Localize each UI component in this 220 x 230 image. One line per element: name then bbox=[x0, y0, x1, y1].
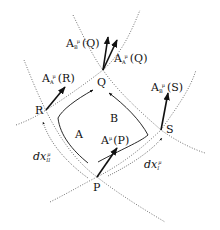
label-path-b: B bbox=[110, 112, 118, 125]
vector-a-r bbox=[46, 87, 65, 110]
vectors bbox=[46, 37, 168, 177]
label-vector-a-q-b: ABμ(Q) bbox=[65, 37, 100, 50]
transport-paths bbox=[58, 90, 148, 163]
label-p: P bbox=[93, 181, 101, 194]
parallel-transport-diagram: P Q R S A B Aμ(P) AAμ(R) ABμ(Q) AAμ(Q) A… bbox=[0, 0, 220, 230]
label-vector-a-r: AAμ(R) bbox=[41, 72, 75, 85]
label-vector-a-p: Aμ(P) bbox=[100, 134, 129, 147]
label-s: S bbox=[166, 123, 174, 136]
curve-right-qs bbox=[73, 15, 205, 153]
label-q: Q bbox=[97, 76, 106, 89]
label-dx1: dxIμ bbox=[144, 158, 161, 171]
label-path-a: A bbox=[74, 128, 84, 141]
label-vector-a-q-a: AAμ(Q) bbox=[113, 52, 147, 65]
path-a-left bbox=[58, 90, 93, 163]
path-b-right bbox=[98, 93, 148, 162]
label-dx2: dxIIμ bbox=[33, 150, 51, 163]
label-r: R bbox=[35, 104, 44, 117]
displacement-labels: dxIIμ dxIμ bbox=[33, 150, 161, 171]
vector-a-p bbox=[97, 148, 117, 177]
vector-labels: Aμ(P) AAμ(R) ABμ(Q) AAμ(Q) ABμ(S) bbox=[41, 37, 183, 147]
label-vector-a-s: ABμ(S) bbox=[150, 81, 183, 94]
